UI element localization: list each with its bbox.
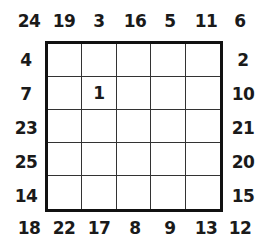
grid-cell-r3c3[interactable]: [117, 110, 151, 143]
right-clue-row-4: 20: [225, 152, 261, 172]
grid-cell-r1c5[interactable]: [186, 44, 220, 77]
grid-cell-r3c2[interactable]: [82, 110, 116, 143]
grid-cell-r1c3[interactable]: [117, 44, 151, 77]
grid-cell-r4c5[interactable]: [186, 143, 220, 176]
grid-cell-r4c1[interactable]: [48, 143, 82, 176]
right-clue-row-3: 21: [225, 118, 261, 138]
bottom-clue-col-4: 9: [152, 218, 188, 238]
grid-cell-r5c1[interactable]: [48, 176, 82, 209]
grid-cell-r4c3[interactable]: [117, 143, 151, 176]
grid-cell-r4c4[interactable]: [151, 143, 185, 176]
right-clue-row-1: 2: [225, 50, 261, 70]
grid-cell-r2c2[interactable]: 1: [82, 77, 116, 110]
corner-clue-bottom-left: 18: [11, 218, 47, 238]
corner-clue-top-left: 24: [11, 11, 47, 31]
left-clue-row-2: 7: [8, 84, 44, 104]
grid-cell-r3c4[interactable]: [151, 110, 185, 143]
grid-cell-r1c2[interactable]: [82, 44, 116, 77]
grid-cell-r2c5[interactable]: [186, 77, 220, 110]
top-clue-col-4: 5: [152, 11, 188, 31]
grid-cell-r4c2[interactable]: [82, 143, 116, 176]
grid-cell-r3c1[interactable]: [48, 110, 82, 143]
grid-cell-r5c3[interactable]: [117, 176, 151, 209]
top-clue-col-3: 16: [117, 11, 153, 31]
top-clue-col-2: 3: [81, 11, 117, 31]
left-clue-row-5: 14: [8, 186, 44, 206]
bottom-clue-col-3: 8: [117, 218, 153, 238]
corner-clue-top-right: 6: [222, 11, 258, 31]
top-clue-col-1: 19: [46, 11, 82, 31]
grid-cell-r2c4[interactable]: [151, 77, 185, 110]
right-clue-row-5: 15: [225, 186, 261, 206]
corner-clue-bottom-right: 12: [222, 218, 258, 238]
right-clue-row-2: 10: [225, 84, 261, 104]
left-clue-row-3: 23: [8, 118, 44, 138]
grid-cell-r1c1[interactable]: [48, 44, 82, 77]
grid-cell-r2c1[interactable]: [48, 77, 82, 110]
left-clue-row-4: 25: [8, 152, 44, 172]
bottom-clue-col-5: 13: [188, 218, 224, 238]
grid-cell-r5c5[interactable]: [186, 176, 220, 209]
bottom-clue-col-2: 17: [81, 218, 117, 238]
grid-cell-r5c4[interactable]: [151, 176, 185, 209]
top-clue-col-5: 11: [188, 11, 224, 31]
grid-cell-r2c3[interactable]: [117, 77, 151, 110]
grid-cell-r5c2[interactable]: [82, 176, 116, 209]
bottom-clue-col-1: 22: [46, 218, 82, 238]
grid-cell-r3c5[interactable]: [186, 110, 220, 143]
left-clue-row-1: 4: [8, 50, 44, 70]
grid-cell-r1c4[interactable]: [151, 44, 185, 77]
puzzle-grid: 1: [45, 41, 223, 212]
